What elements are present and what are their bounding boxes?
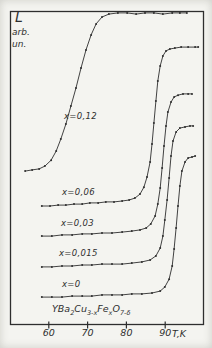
- data-point: [91, 264, 93, 266]
- data-point: [192, 125, 194, 127]
- data-point: [187, 157, 189, 159]
- data-point: [50, 159, 52, 161]
- curve-label-x012: x=0,12: [64, 111, 97, 121]
- data-point: [169, 48, 171, 50]
- data-point: [81, 233, 83, 235]
- data-point: [181, 170, 183, 172]
- data-point: [139, 193, 141, 195]
- data-point: [90, 34, 92, 36]
- x-tick-label-60: 60: [43, 327, 55, 338]
- data-point: [41, 235, 43, 237]
- data-point: [134, 197, 136, 199]
- data-point: [126, 12, 128, 14]
- data-point: [101, 263, 103, 265]
- data-point: [149, 161, 151, 163]
- data-point: [71, 295, 73, 297]
- data-point: [49, 205, 51, 207]
- data-point: [81, 295, 83, 297]
- data-point: [41, 266, 43, 268]
- data-point: [175, 131, 177, 133]
- data-point: [157, 80, 159, 82]
- data-point: [91, 233, 93, 235]
- data-point: [194, 155, 196, 157]
- data-point: [131, 293, 133, 295]
- data-point: [177, 94, 179, 96]
- data-point: [164, 286, 166, 288]
- compound-formula: YBa2Cu3-xFexO7-δ: [52, 303, 130, 317]
- data-point: [111, 294, 113, 296]
- data-point: [155, 100, 157, 102]
- data-point: [162, 13, 164, 15]
- data-point: [184, 161, 186, 163]
- x-tick-label-90: 90: [159, 327, 171, 338]
- data-point: [153, 12, 155, 14]
- data-point: [61, 234, 63, 236]
- data-point: [51, 266, 53, 268]
- data-point: [51, 296, 53, 298]
- data-point: [186, 12, 188, 14]
- data-point: [159, 290, 161, 292]
- data-point: [105, 201, 107, 203]
- curve-x=0.12: [25, 13, 187, 171]
- data-point: [81, 264, 83, 266]
- data-point: [159, 65, 161, 67]
- data-point: [65, 204, 67, 206]
- data-point: [55, 150, 57, 152]
- data-point: [121, 263, 123, 265]
- data-point: [44, 165, 46, 167]
- data-point: [182, 93, 184, 95]
- data-point: [71, 234, 73, 236]
- data-point: [121, 294, 123, 296]
- data-point: [155, 255, 157, 257]
- data-point: [194, 46, 196, 48]
- data-point: [65, 123, 67, 125]
- x-tick-label-70: 70: [82, 327, 94, 338]
- curve-label-x0015: x=0,015: [59, 248, 98, 258]
- data-point: [171, 265, 173, 267]
- data-point: [189, 125, 191, 127]
- data-point: [191, 93, 193, 95]
- data-point: [113, 201, 115, 203]
- data-point: [131, 262, 133, 264]
- data-point: [174, 47, 176, 49]
- data-point: [166, 199, 168, 201]
- data-point: [165, 125, 167, 127]
- data-point: [151, 143, 153, 145]
- data-point: [41, 205, 43, 207]
- data-point: [146, 176, 148, 178]
- data-point: [165, 50, 167, 52]
- data-point: [180, 46, 182, 48]
- data-point: [73, 203, 75, 205]
- data-point: [162, 55, 164, 57]
- data-point: [153, 122, 155, 124]
- data-point: [101, 232, 103, 234]
- data-point: [91, 295, 93, 297]
- data-point: [172, 140, 174, 142]
- data-point: [173, 96, 175, 98]
- data-point: [179, 12, 181, 14]
- data-point: [81, 203, 83, 205]
- data-point: [89, 202, 91, 204]
- data-point: [173, 248, 175, 250]
- data-point: [154, 215, 156, 217]
- data-point: [111, 263, 113, 265]
- data-point: [24, 170, 26, 172]
- data-point: [144, 12, 146, 14]
- data-point: [108, 13, 110, 15]
- data-point: [163, 145, 165, 147]
- data-point: [60, 138, 62, 140]
- data-point: [184, 126, 186, 128]
- data-point: [187, 46, 189, 48]
- data-point: [177, 205, 179, 207]
- data-point: [159, 247, 161, 249]
- data-point: [111, 232, 113, 234]
- data-point: [117, 12, 119, 14]
- data-point: [51, 235, 53, 237]
- x-axis-unit-label: T,K: [172, 328, 186, 339]
- data-point: [141, 293, 143, 295]
- data-point: [31, 169, 33, 171]
- data-point: [168, 278, 170, 280]
- x-tick-label-80: 80: [120, 327, 132, 338]
- data-point: [151, 292, 153, 294]
- data-point: [135, 13, 137, 15]
